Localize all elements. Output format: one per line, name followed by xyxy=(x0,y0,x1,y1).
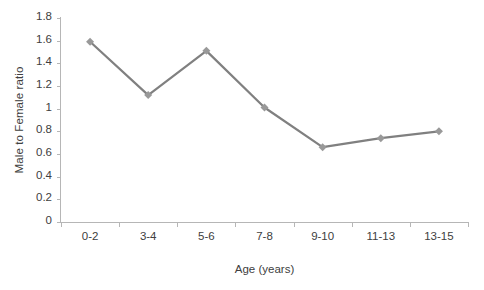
line-chart: Male to Female ratio 00.20.40.60.811.21.… xyxy=(0,0,484,290)
x-axis-title-text: Age (years) xyxy=(235,263,294,275)
data-point-marker xyxy=(435,127,443,135)
series-layer xyxy=(0,0,484,290)
data-point-marker xyxy=(377,134,385,142)
x-axis-title: Age (years) xyxy=(61,263,468,275)
series-markers xyxy=(86,38,443,151)
series-line xyxy=(90,42,439,147)
